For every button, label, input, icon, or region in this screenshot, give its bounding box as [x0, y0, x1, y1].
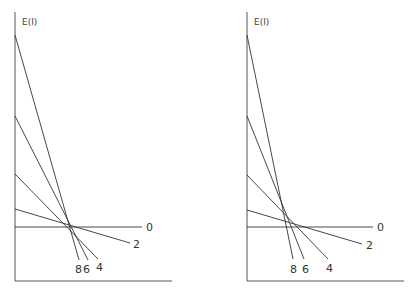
line-label-8: 8: [75, 263, 82, 276]
panel-left: E(I)02468: [15, 12, 172, 281]
line-label-0: 0: [146, 221, 153, 234]
line-8: [247, 35, 293, 259]
panel-right: E(I)02468: [247, 12, 404, 281]
y-axis-label: E(I): [22, 17, 37, 27]
line-label-4: 4: [326, 262, 333, 275]
line-6: [247, 116, 304, 259]
line-label-2: 2: [133, 238, 140, 251]
line-8: [15, 35, 79, 260]
line-6: [15, 116, 88, 260]
line-4: [15, 174, 98, 259]
diagram-canvas: E(I)02468E(I)02468: [0, 0, 414, 293]
line-label-2: 2: [366, 239, 373, 252]
line-label-8: 8: [290, 263, 297, 276]
line-label-0: 0: [377, 221, 384, 234]
line-label-4: 4: [96, 261, 103, 274]
line-label-6: 6: [302, 263, 309, 276]
y-axis-label: E(I): [254, 17, 269, 27]
line-label-6: 6: [83, 263, 90, 276]
